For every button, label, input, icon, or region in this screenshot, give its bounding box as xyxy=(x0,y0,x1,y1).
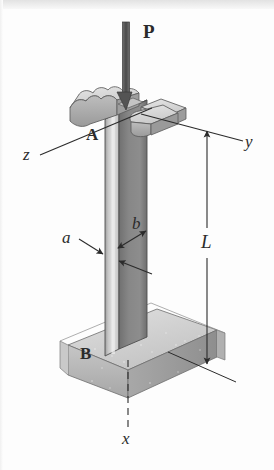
load-arrow-shaft xyxy=(123,22,130,96)
label-point-B: B xyxy=(80,345,91,362)
label-axis-z: z xyxy=(23,146,30,163)
base-block-back-edge-left xyxy=(60,341,68,375)
label-axis-y: y xyxy=(245,133,253,150)
dimension-a-leader xyxy=(79,239,103,254)
column-front-highlight xyxy=(112,116,115,354)
label-load-P: P xyxy=(143,22,155,41)
cap-plate-right-near-front-face xyxy=(131,122,151,137)
base-block-back-edge-right xyxy=(217,330,225,360)
label-point-A: A xyxy=(86,126,98,143)
scan-artifact-top-band xyxy=(0,0,274,9)
label-length-L: L xyxy=(201,232,212,251)
figure-canvas xyxy=(0,0,274,470)
scan-artifact-left-edge xyxy=(0,0,3,470)
column-buckling-figure: P A B L a b x y z xyxy=(0,0,274,470)
label-dimension-b: b xyxy=(132,215,141,232)
column-member xyxy=(105,100,147,356)
load-arrow-P xyxy=(117,22,132,110)
label-axis-x: x xyxy=(122,430,130,447)
label-dimension-a: a xyxy=(62,229,71,246)
